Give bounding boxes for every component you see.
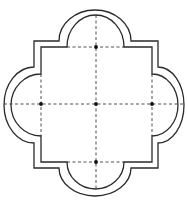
center-point-bottom-icon — [94, 160, 98, 164]
outer-wall-outline — [4, 10, 184, 196]
center-point-left-icon — [39, 102, 43, 106]
center-point-right-icon — [150, 102, 154, 106]
center-point-center-icon — [94, 102, 98, 106]
quatrefoil-plan-diagram — [0, 0, 188, 205]
center-point-top-icon — [94, 45, 98, 49]
center-points — [39, 45, 154, 164]
